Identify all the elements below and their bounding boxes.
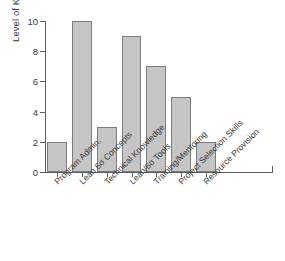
y-axis-tick-label: 4 [0, 108, 38, 118]
y-axis-tick-label: 2 [0, 138, 38, 148]
x-axis-end-tick [272, 166, 273, 173]
y-axis-tick-label: 8 [0, 47, 38, 57]
y-axis-tick-label: 10 [0, 17, 38, 27]
y-axis-tick-label: 0 [0, 168, 38, 178]
bar-chart: Level of Knowledge 0246810 Program Admin… [0, 0, 285, 261]
y-axis-tick-label: 6 [0, 77, 38, 87]
